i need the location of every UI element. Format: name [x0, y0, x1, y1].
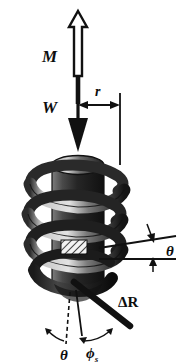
diagram-canvas: θ ΔR θ ϕs M W r	[0, 0, 189, 364]
delta-r-label: ΔR	[118, 294, 138, 310]
weight-label-W: W	[42, 98, 59, 117]
theta-bottom-label: θ	[60, 347, 68, 363]
theta-right-label: θ	[166, 243, 174, 259]
delta-symbol: ΔR	[118, 294, 138, 310]
radius-label-r: r	[95, 84, 101, 99]
moment-label-M: M	[41, 47, 58, 66]
force-diagram-figure: θ ΔR θ ϕs M W r	[0, 0, 189, 364]
phi-subscript: s	[94, 354, 99, 364]
cross-section-hatch	[61, 240, 87, 254]
phi-symbol: ϕ	[86, 345, 95, 361]
